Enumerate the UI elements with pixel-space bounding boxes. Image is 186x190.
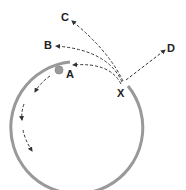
label-C: C	[61, 12, 69, 23]
path-to-A-arrow	[73, 65, 121, 84]
circular-track	[11, 62, 143, 190]
inner-path-arrow-3	[23, 130, 32, 151]
inner-path-arrow-1	[35, 76, 50, 92]
trajectory-diagram	[0, 0, 186, 190]
label-X: X	[117, 88, 124, 99]
label-A: A	[66, 69, 74, 80]
label-B: B	[44, 40, 52, 51]
label-D: D	[167, 43, 175, 54]
inner-path-arrow-2	[22, 104, 24, 120]
ball	[55, 66, 63, 74]
path-to-C-arrow	[72, 21, 123, 81]
path-to-D-arrow	[126, 50, 165, 80]
